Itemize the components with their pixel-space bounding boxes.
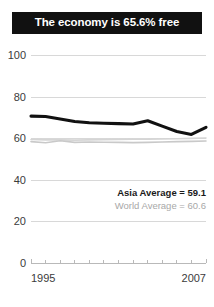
x-tick-marks: [31, 259, 206, 263]
chart-title-bar: The economy is 65.6% free: [12, 12, 202, 34]
x-tick-start: 1995: [31, 273, 55, 284]
y-tick-0: 0: [0, 258, 26, 269]
country-freedom-line: [31, 116, 206, 134]
y-tick-80: 80: [0, 92, 26, 103]
page-title: The economy is 65.6% free: [35, 17, 180, 29]
y-tick-60: 60: [0, 133, 26, 144]
asia-average-line: [31, 141, 206, 143]
economic-freedom-chart: The economy is 65.6% free: [0, 0, 214, 307]
y-tick-100: 100: [0, 50, 26, 61]
y-tick-40: 40: [0, 175, 26, 186]
world-average-label: World Average = 60.6: [115, 199, 206, 212]
plot-area: 100 80 60 40 20 0: [0, 40, 214, 280]
x-tick-end: 2007: [182, 273, 206, 284]
plot-svg: [0, 40, 214, 280]
average-annotations: Asia Average = 59.1 World Average = 60.6: [115, 186, 206, 212]
asia-average-label: Asia Average = 59.1: [115, 186, 206, 199]
y-tick-20: 20: [0, 216, 26, 227]
